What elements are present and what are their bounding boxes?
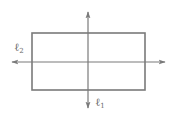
- label-l1-subscript: 1: [100, 102, 104, 110]
- label-l2-subscript: 2: [19, 47, 23, 55]
- symmetry-diagram: [0, 0, 174, 113]
- label-l2: ℓ2: [14, 42, 24, 53]
- label-l1: ℓ1: [95, 97, 105, 108]
